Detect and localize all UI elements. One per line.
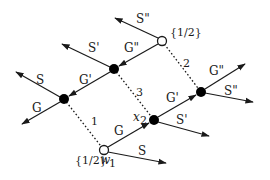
label-g-b: G: [32, 101, 42, 115]
arrow-s-prime-a: [62, 44, 110, 67]
arrow-s-f: [108, 152, 166, 163]
label-f-subscript: 1: [109, 157, 116, 170]
label-dotted-2: 2: [183, 57, 190, 70]
label-s-prime-a: S': [88, 41, 100, 55]
node-a-filled: [109, 64, 119, 74]
label-d-subscript: 2: [140, 114, 147, 127]
label-s-prime-d: S': [176, 113, 188, 127]
label-s-f: S: [138, 144, 146, 158]
graph-diagram: {1/2} S" G" S' G' S G 1 3 2 G S G' S' G"…: [0, 0, 270, 180]
node-d-filled: [149, 115, 159, 125]
label-g-f: G: [114, 124, 124, 138]
dotted-edge-1: [64, 99, 104, 150]
node-c-open: [158, 37, 167, 46]
label-c-weight: {1/2}: [170, 26, 202, 39]
label-g-prime-a: G': [79, 73, 92, 87]
dotted-edge-2: [162, 41, 201, 92]
label-dotted-3: 3: [136, 86, 143, 99]
label-g-double-prime-e: G": [209, 64, 224, 78]
node-e-filled: [196, 87, 206, 97]
label-d-x: x: [133, 110, 140, 124]
label-dotted-1: 1: [91, 115, 98, 128]
label-g-double-prime-top: G": [124, 41, 139, 55]
label-s-b: S: [36, 73, 44, 87]
label-g-prime-d: G': [166, 91, 179, 105]
label-s-double-prime-e: S": [224, 84, 238, 98]
node-b-filled: [59, 94, 69, 104]
label-s-double-prime-top: S": [136, 12, 150, 26]
